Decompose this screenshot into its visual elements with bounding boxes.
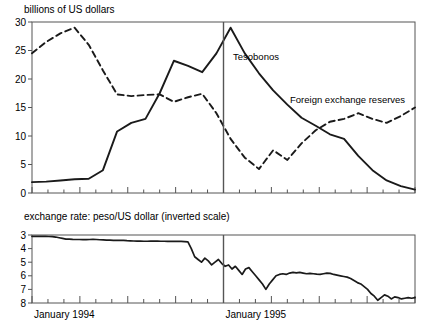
top-y-tick-label: 30 [15, 17, 27, 28]
chart-canvas: 051015202530TesobonosForeign exchange re… [0, 0, 427, 325]
bottom-panel-title: exchange rate: peso/US dollar (inverted … [24, 211, 230, 223]
reserves-label: Foreign exchange reserves [290, 94, 405, 105]
top-y-tick-label: 0 [20, 188, 26, 199]
top-y-tick-label: 5 [20, 159, 26, 170]
top-y-tick-label: 15 [15, 102, 27, 113]
bottom-y-tick-label: 6 [20, 270, 26, 281]
tesobonos-label: Tesobonos [233, 51, 279, 62]
bottom-y-tick-label: 5 [20, 257, 26, 268]
bottom-panel: 345678January 1994January 1995 [20, 230, 415, 320]
top-panel-title: billions of US dollars [24, 4, 115, 16]
top-y-tick-label: 25 [15, 45, 27, 56]
x-axis-label: January 1995 [226, 309, 287, 320]
top-y-tick-label: 20 [15, 74, 27, 85]
bottom-y-tick-label: 7 [20, 284, 26, 295]
x-axis-label: January 1994 [34, 309, 95, 320]
top-y-tick-label: 10 [15, 131, 27, 142]
exchange-rate-figure: billions of US dollars exchange rate: pe… [0, 0, 427, 325]
bottom-y-tick-label: 3 [20, 230, 26, 241]
bottom-y-tick-label: 4 [20, 243, 26, 254]
bottom-y-tick-label: 8 [20, 298, 26, 309]
top-panel: 051015202530TesobonosForeign exchange re… [15, 17, 415, 199]
